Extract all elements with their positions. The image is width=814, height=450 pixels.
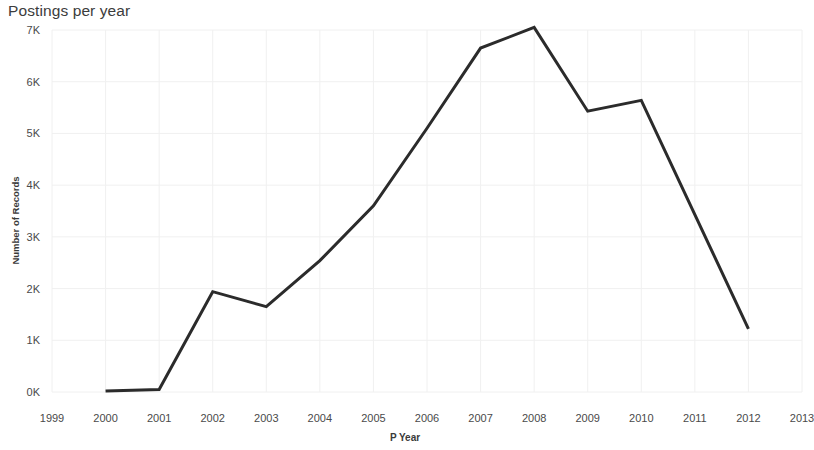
y-axis-tick-label: 0K	[27, 386, 40, 398]
x-axis-tick-label: 2004	[308, 412, 332, 424]
y-axis-tick-label: 1K	[27, 334, 40, 346]
data-line-number-of-records	[106, 27, 749, 391]
x-axis-tick-label: 2002	[200, 412, 224, 424]
x-axis-tick-label: 2000	[93, 412, 117, 424]
plot-area	[52, 30, 802, 392]
x-axis-tick-label: 2007	[468, 412, 492, 424]
x-axis-tick-label: 2011	[683, 412, 707, 424]
x-axis-tick-label: 2010	[629, 412, 653, 424]
y-axis-tick-label: 5K	[27, 127, 40, 139]
x-axis-tick-label: 2005	[361, 412, 385, 424]
x-axis-title: P Year	[0, 432, 810, 443]
x-axis-tick-label: 2009	[575, 412, 599, 424]
x-axis-tick-label: 2012	[736, 412, 760, 424]
y-axis-tick-label: 2K	[27, 283, 40, 295]
y-axis-tick-label: 7K	[27, 24, 40, 36]
x-axis-tick-label: 2001	[147, 412, 171, 424]
y-axis-tick-label: 3K	[27, 231, 40, 243]
x-axis-tick-label: 2006	[415, 412, 439, 424]
chart-title: Postings per year	[8, 2, 130, 20]
x-axis-tick-label: 1999	[40, 412, 64, 424]
y-axis-tick-labels: 0K1K2K3K4K5K6K7K	[0, 30, 48, 410]
x-axis-tick-label: 2003	[254, 412, 278, 424]
x-axis-tick-label: 2008	[522, 412, 546, 424]
y-axis-tick-label: 4K	[27, 179, 40, 191]
data-series-layer	[52, 30, 802, 392]
x-axis-tick-labels: 1999200020012002200320042005200620072008…	[0, 412, 810, 430]
x-axis-tick-label: 2013	[790, 412, 814, 424]
y-axis-tick-label: 6K	[27, 76, 40, 88]
